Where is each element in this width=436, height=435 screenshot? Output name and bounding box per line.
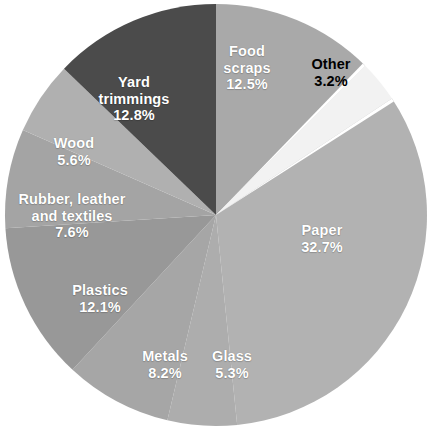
pie-chart-svg (0, 0, 436, 435)
pie-slice-group (5, 4, 427, 426)
pie-chart-figure: Foodscraps12.5%Other3.2%Paper32.7%Glass5… (0, 0, 436, 435)
